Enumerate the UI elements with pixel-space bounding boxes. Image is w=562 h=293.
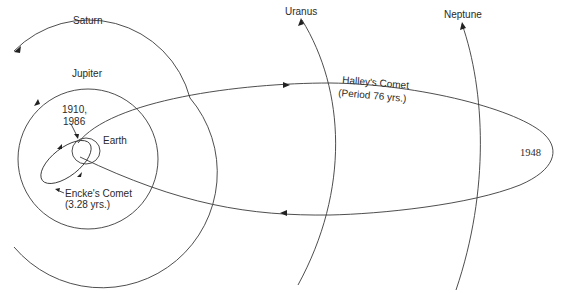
earth-label: Earth: [103, 135, 127, 146]
neptune-label: Neptune: [444, 9, 482, 20]
perihelion-label-2: 1986: [63, 116, 86, 127]
saturn-label: Saturn: [73, 15, 102, 26]
saturn-orbit: [14, 20, 217, 288]
neptune-arrow-icon: [460, 22, 466, 30]
neptune-orbit: [456, 24, 480, 290]
jupiter-orbit-arrow-icon: [34, 99, 40, 106]
perihelion-label-1: 1910,: [62, 104, 87, 115]
perihelion-leader-arrow-icon: [74, 134, 79, 139]
uranus-orbit: [298, 20, 336, 285]
halley-arrow-icon-bottom: [280, 210, 287, 216]
orbit-diagram: Saturn Jupiter 1910, 1986 Earth Encke's …: [0, 0, 562, 293]
uranus-label: Uranus: [285, 6, 317, 17]
jupiter-label: Jupiter: [72, 68, 103, 79]
halley-arrow-icon-top: [283, 82, 290, 88]
aphelion-label: 1948: [520, 147, 541, 158]
encke-label-1: Encke's Comet: [65, 188, 132, 199]
encke-arrow-icon-2: [77, 172, 82, 177]
encke-arrow-icon-1: [57, 144, 62, 149]
encke-label-2: (3.28 yrs.): [65, 199, 110, 210]
halley-orbit: [78, 83, 553, 215]
encke-orbit: [34, 132, 99, 191]
